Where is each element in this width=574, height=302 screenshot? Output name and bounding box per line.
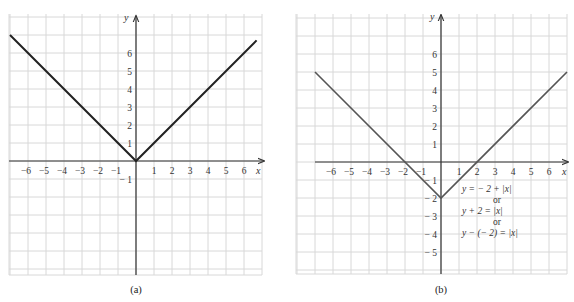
y-axis-label-a: y [123,12,129,23]
x-tick-label: −4 [362,167,372,177]
x-tick-label: −2 [398,167,408,177]
figure: −6−5−4−3−2−1123456123456− 1 x y (a) −6−5… [0,0,574,302]
x-tick-label: 1 [152,166,157,176]
x-axis-label-a: x [255,165,261,176]
x-tick-label: −3 [380,167,390,177]
y-axis-label-b: y [429,11,435,22]
x-tick-label: 3 [188,166,193,176]
x-tick-label: 3 [493,167,498,177]
y-tick-label: − 3 [425,212,438,222]
x-tick-label: 4 [511,167,516,177]
x-tick-label: 2 [170,166,175,176]
graph-a: −6−5−4−3−2−1123456123456− 1 x y (a) [9,12,264,296]
y-tick-label: 3 [127,103,132,113]
y-tick-label: − 5 [425,248,438,258]
x-tick-label: 6 [547,167,552,177]
y-tick-label: − 1 [120,175,133,185]
tick-labels-a: −6−5−4−3−2−1123456123456− 1 [21,49,247,185]
y-tick-label: 4 [432,86,437,96]
x-tick-label: −5 [344,167,354,177]
equation-line: y − (− 2) = |x| [461,228,518,239]
tick-labels-b: −6−5−4−3−2−1123456123456− 1− 2− 3− 4− 5 [326,50,552,258]
equation-line: or [493,195,502,205]
y-tick-label: 1 [127,139,132,149]
x-tick-label: 5 [224,166,229,176]
y-tick-label: 6 [432,50,437,60]
y-tick-label: 2 [432,122,437,132]
x-tick-label: 2 [475,167,480,177]
equation-line: or [493,217,502,227]
x-tick-label: −4 [57,166,67,176]
y-tick-label: 6 [127,49,132,59]
x-tick-label: 1 [457,167,462,177]
x-axis-label-b: x [561,166,567,177]
y-tick-label: 1 [432,140,437,150]
x-tick-label: 4 [206,166,211,176]
y-tick-label: − 4 [425,230,438,240]
x-tick-label: −6 [21,166,31,176]
abs-value-line-a [10,35,257,161]
x-tick-label: −3 [75,166,85,176]
graph-b: −6−5−4−3−2−1123456123456− 1− 2− 3− 4− 5 … [296,11,568,296]
x-tick-label: 6 [242,166,247,176]
y-tick-label: 5 [127,67,132,77]
y-tick-label: 4 [127,85,132,95]
equation-line: y + 2 = |x| [461,206,503,216]
equation-line: y = − 2 + |x| [461,184,512,194]
x-tick-label: −5 [39,166,49,176]
x-tick-label: −2 [93,166,103,176]
y-tick-label: 5 [432,68,437,78]
caption-a: (a) [130,284,142,296]
x-tick-label: 5 [529,167,534,177]
caption-b: (b) [435,284,448,296]
y-tick-label: 3 [432,104,437,114]
equation-annotation: y = − 2 + |x|ory + 2 = |x|ory − (− 2) = … [461,184,518,239]
y-tick-label: − 2 [425,194,438,204]
x-tick-label: −6 [326,167,336,177]
y-tick-label: 2 [127,121,132,131]
